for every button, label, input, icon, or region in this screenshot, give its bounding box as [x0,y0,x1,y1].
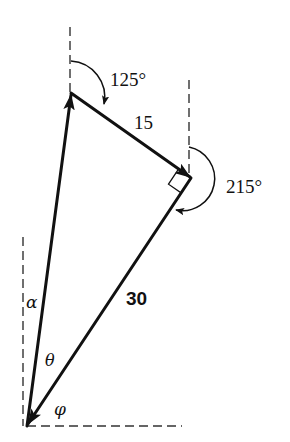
label-angle-right: 215° [226,176,262,197]
label-phi: φ [54,399,66,419]
vector-right-to-bottom [28,178,191,424]
label-alpha: α [26,292,38,312]
label-angle-top: 125° [110,69,146,90]
arc-215 [176,147,215,211]
label-side-30: 30 [126,288,147,309]
vectors [27,93,191,426]
label-side-15: 15 [134,112,153,133]
label-theta: θ [45,351,55,370]
vector-diagram: 125° 15 215° 30 α θ φ [0,0,290,442]
vector-bottom-to-top [27,95,71,426]
vector-top-to-right [71,93,190,177]
